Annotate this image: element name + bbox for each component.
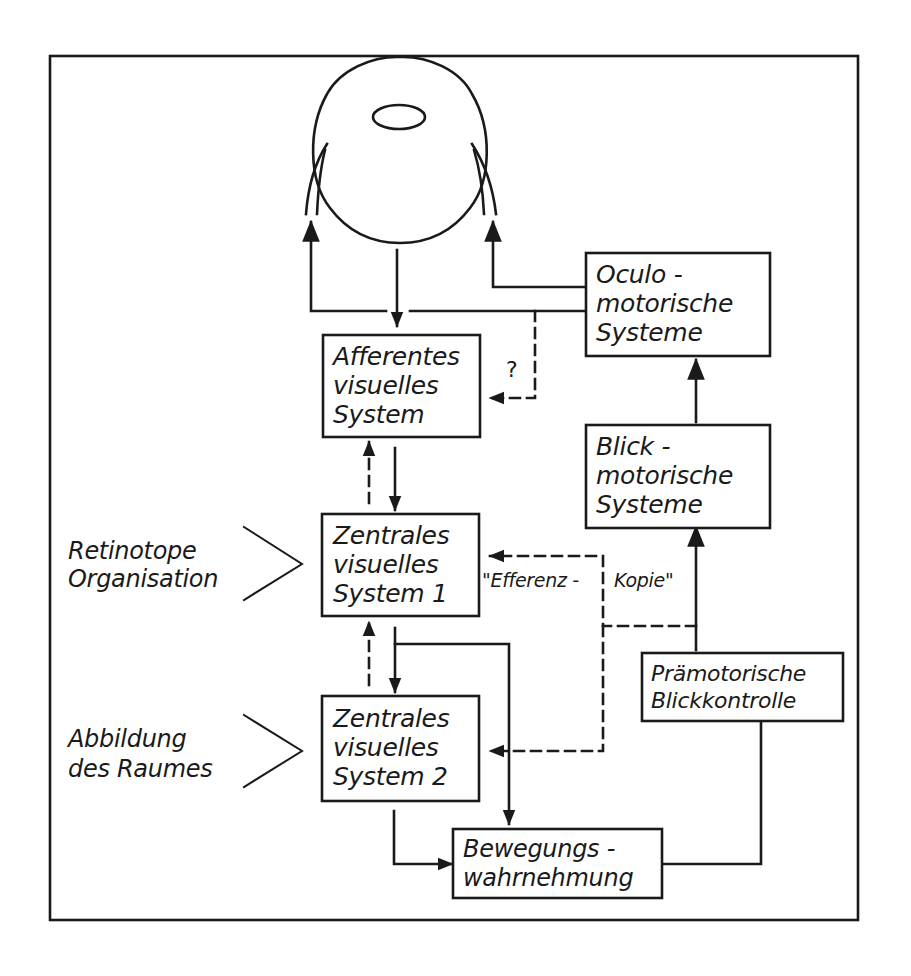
node-premotor-line1: Prämotorische [651, 660, 806, 687]
node-afferent-line2: visuelles [333, 371, 460, 400]
edge-label-question: ? [506, 355, 517, 384]
label-retinotopic-organisation: Retinotope Organisation [68, 537, 218, 593]
node-oculomotor-line3: Systeme [596, 318, 733, 347]
chevron-space-icon [244, 715, 302, 787]
node-oculomotor-line2: motorische [596, 289, 733, 318]
edge-label-copy: Kopie" [614, 569, 673, 591]
node-central2-line1: Zentrales [333, 704, 449, 733]
label-spatial-mapping: Abbildung des Raumes [68, 724, 212, 784]
chevron-retinotopic-icon [244, 527, 302, 600]
node-motion-line2: wahrnehmung [463, 864, 633, 893]
node-central2: Zentrales visuelles System 2 [333, 704, 449, 791]
edge-efference-copy-to-central1 [490, 556, 696, 626]
node-central1: Zentrales visuelles System 1 [333, 521, 449, 608]
eye-icon [306, 57, 496, 243]
diagram-canvas: Oculo - motorische Systeme Afferentes vi… [0, 0, 911, 976]
node-gaze-motor-line3: Systeme [596, 490, 733, 519]
edge-label-efference: "Efferenz - [482, 569, 579, 591]
node-premotor: Prämotorische Blickkontrolle [651, 660, 806, 714]
node-motion: Bewegungs - wahrnehmung [463, 835, 633, 893]
label-retinotopic-line2: Organisation [68, 565, 218, 593]
diagram-lines [0, 0, 911, 976]
node-motion-line1: Bewegungs - [463, 835, 633, 864]
node-afferent: Afferentes visuelles System [333, 342, 460, 429]
node-gaze-motor: Blick - motorische Systeme [596, 432, 733, 519]
node-oculomotor: Oculo - motorische Systeme [596, 260, 733, 347]
node-central2-line3: System 2 [333, 762, 449, 791]
node-central1-line1: Zentrales [333, 521, 449, 550]
label-space-line2: des Raumes [68, 754, 212, 784]
label-retinotopic-line1: Retinotope [68, 537, 218, 565]
node-central1-line2: visuelles [333, 550, 449, 579]
node-central2-line2: visuelles [333, 733, 449, 762]
edge-oculo-to-eye-right [493, 222, 586, 287]
node-afferent-line3: System [333, 400, 460, 429]
node-oculomotor-line1: Oculo - [596, 260, 733, 289]
node-gaze-motor-line2: motorische [596, 461, 733, 490]
node-gaze-motor-line1: Blick - [596, 432, 733, 461]
label-space-line1: Abbildung [68, 724, 212, 754]
node-central1-line3: System 1 [333, 579, 449, 608]
node-afferent-line1: Afferentes [333, 342, 460, 371]
edge-central2-to-motion [394, 811, 452, 864]
node-premotor-line2: Blickkontrolle [651, 687, 806, 714]
